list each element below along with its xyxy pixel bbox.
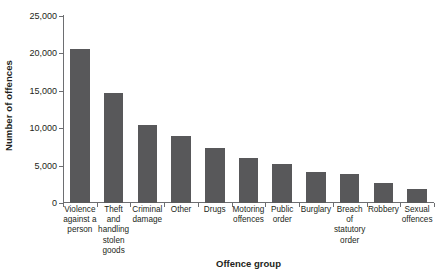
y-axis-tick-label: 0 — [52, 198, 57, 208]
bars-layer — [63, 16, 434, 203]
x-axis-category-label: Violence against a person — [63, 205, 97, 236]
y-axis-tick-label: 20,000 — [29, 48, 57, 58]
bar — [239, 158, 259, 203]
bar — [272, 164, 292, 203]
y-axis-title-text: Number of offences — [3, 59, 14, 150]
x-axis-category-label: Sexual offences — [400, 205, 434, 225]
x-axis-category-label: Drugs — [198, 205, 232, 215]
bar — [306, 172, 326, 203]
y-axis-tick-mark — [59, 91, 63, 92]
y-axis-tick-mark — [59, 128, 63, 129]
x-axis-category-label: Public order — [265, 205, 299, 225]
x-axis-category-label: Burglary — [299, 205, 333, 215]
bar-chart-figure: Number of offences 05,00010,00015,00020,… — [0, 0, 436, 275]
plot-area — [63, 16, 434, 203]
x-axis-category-label: Other — [164, 205, 198, 215]
bar — [205, 148, 225, 203]
y-axis-tick-label: 15,000 — [29, 86, 57, 96]
x-axis-category-label: Criminal damage — [130, 205, 164, 225]
y-axis-tick-mark — [59, 53, 63, 54]
x-axis-title: Offence group — [63, 258, 434, 269]
y-axis-title: Number of offences — [0, 0, 16, 210]
y-axis-tick-label-group: 05,00010,00015,00020,00025,000 — [16, 0, 61, 275]
y-axis-tick-mark — [59, 16, 63, 17]
y-axis-tick-label: 10,000 — [29, 123, 57, 133]
bar — [104, 93, 124, 203]
bar — [374, 183, 394, 203]
bar — [340, 174, 360, 203]
bar — [138, 125, 158, 203]
y-axis-tick-mark — [59, 166, 63, 167]
x-axis-category-label-group: Violence against a personTheft and handl… — [63, 205, 434, 263]
y-axis-tick-label: 25,000 — [29, 11, 57, 21]
x-axis-category-label: Theft and handling stolen goods — [97, 205, 131, 256]
bar — [407, 189, 427, 203]
x-axis-category-label: Breach of statutory order — [333, 205, 367, 246]
bar — [171, 136, 191, 203]
x-axis-category-label: Robbery — [367, 205, 401, 215]
bar — [70, 49, 90, 203]
x-axis-tick-mark — [434, 203, 435, 207]
x-axis-category-label: Motoring offences — [232, 205, 266, 225]
y-axis-tick-label: 5,000 — [34, 161, 57, 171]
